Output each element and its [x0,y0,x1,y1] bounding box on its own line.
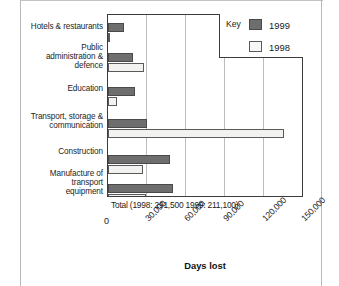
bar-group-transport-storage [108,119,302,139]
bar-education-1998 [108,97,117,106]
category-label-education: Education [67,84,103,93]
chart-legend: Key 1999 1998 [219,14,303,58]
bar-group-education [108,87,302,107]
bar-hotels-restaurants-1999 [108,23,124,32]
legend-entry-1999: 1999 [220,14,303,36]
bar-construction-1999 [108,155,170,164]
bar-education-1999 [108,87,135,96]
total-annotation-text: Total (1998: 291,500 1999: 211,100) [107,200,238,210]
bar-transport-storage-1999 [108,119,147,128]
xtick-label-150000: 150,000 [299,195,327,223]
bar-transport-storage-1998 [108,129,284,138]
x-axis-title: Days lost [107,260,303,271]
bar-manufacture-transport-1999 [108,184,173,193]
bar-construction-1998 [108,165,143,174]
bar-hotels-restaurants-1998 [108,33,110,42]
bar-public-administration-1999 [108,53,133,62]
bar-public-administration-1998 [108,63,144,72]
category-label-transport-storage: Transport, storage & communication [31,112,103,130]
category-label-manufacture-transport: Manufacture of transport equipment [50,169,103,197]
bar-group-construction [108,155,302,175]
category-label-hotels-restaurants: Hotels & restaurants [31,22,103,31]
xtick-label-0: 0 [104,216,109,226]
legend-label-1999: 1999 [269,20,290,31]
legend-entry-1998: 1998 [220,36,303,58]
legend-swatch-1999 [249,19,262,30]
legend-label-1998: 1998 [269,42,290,53]
bar-chart-figure: Hotels & restaurants Public administrati… [0,0,339,286]
category-label-construction: Construction [58,147,103,156]
legend-swatch-1998 [249,41,262,52]
category-label-public-administration: Public administration & defence [46,43,103,71]
